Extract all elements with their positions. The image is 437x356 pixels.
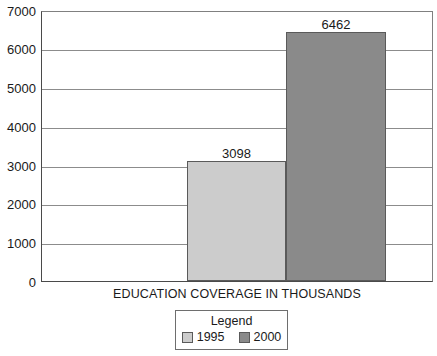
legend-label-1995: 1995 [197, 331, 225, 344]
legend: Legend 1995 2000 [175, 310, 288, 350]
x-axis-title: EDUCATION COVERAGE IN THOUSANDS [41, 287, 433, 301]
y-axis-tick-6000: 6000 [0, 43, 36, 56]
legend-swatch-icon-1995 [182, 332, 193, 343]
legend-entries: 1995 2000 [176, 331, 287, 344]
bar-2000[interactable] [286, 32, 386, 281]
y-axis-tick-1000: 1000 [0, 237, 36, 250]
bar-chart: 7000 6000 5000 4000 3000 2000 1000 0 309… [0, 0, 437, 356]
legend-item-2000[interactable]: 2000 [239, 331, 282, 344]
legend-title: Legend [176, 314, 287, 328]
bar-1995[interactable] [187, 161, 286, 281]
bar-label-1995: 3098 [187, 147, 286, 160]
y-axis-tick-2000: 2000 [0, 198, 36, 211]
bar-label-2000: 6462 [286, 18, 386, 31]
y-axis-tick-4000: 4000 [0, 121, 36, 134]
y-axis-tick-7000: 7000 [0, 5, 36, 18]
y-axis-tick-5000: 5000 [0, 82, 36, 95]
legend-item-1995[interactable]: 1995 [182, 331, 225, 344]
plot-area: 3098 6462 [41, 11, 433, 282]
legend-label-2000: 2000 [254, 331, 282, 344]
legend-swatch-icon-2000 [239, 332, 250, 343]
y-axis-tick-3000: 3000 [0, 160, 36, 173]
y-axis-tick-0: 0 [0, 276, 36, 289]
